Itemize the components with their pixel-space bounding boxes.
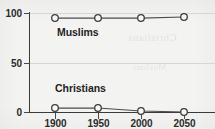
series-line-muslims bbox=[55, 17, 184, 18]
data-point-muslims-1900 bbox=[52, 15, 59, 22]
chart-plot-area bbox=[0, 0, 215, 129]
x-axis-tick-label-1900: 1900 bbox=[39, 118, 72, 129]
y-axis-tick-label-100: 100 bbox=[0, 8, 22, 19]
y-axis-tick-label-0: 0 bbox=[0, 107, 22, 118]
data-point-muslims-2050 bbox=[181, 14, 188, 21]
data-point-christians-2000 bbox=[138, 108, 145, 115]
series-label-muslims: Muslims bbox=[57, 26, 99, 38]
data-point-christians-2050 bbox=[181, 109, 188, 116]
line-chart-figure: Christians Muslims 100 50 0 bbox=[0, 0, 215, 129]
series-line-christians bbox=[55, 108, 184, 112]
data-point-christians-1950 bbox=[95, 105, 102, 112]
y-axis-tick-label-50: 50 bbox=[0, 58, 22, 69]
x-axis-tick-label-2000: 2000 bbox=[125, 118, 158, 129]
x-axis-tick-label-1950: 1950 bbox=[82, 118, 115, 129]
x-axis-tick-label-2050: 2050 bbox=[168, 118, 201, 129]
series-label-christians: Christians bbox=[55, 82, 106, 94]
data-point-muslims-2000 bbox=[138, 15, 145, 22]
data-point-christians-1900 bbox=[52, 105, 59, 112]
data-point-muslims-1950 bbox=[95, 15, 102, 22]
